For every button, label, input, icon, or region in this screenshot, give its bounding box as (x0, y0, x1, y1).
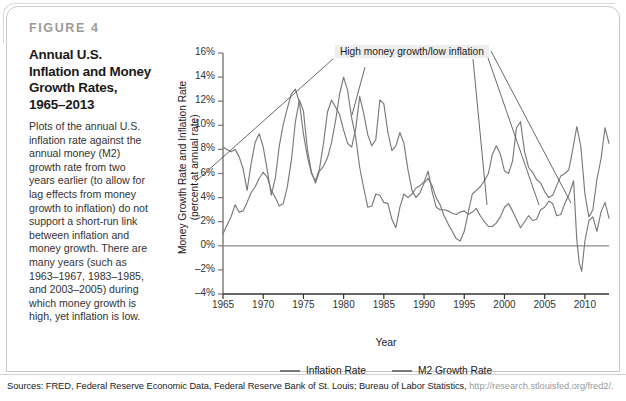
x-tick-label: 1990 (404, 299, 444, 310)
series-line-0 (223, 77, 609, 271)
annotation-leader-lines (195, 51, 571, 205)
y-tick-label: 12% (181, 94, 215, 105)
x-tick-label: 1980 (324, 299, 364, 310)
leader-line (491, 51, 571, 203)
series-lines (223, 77, 609, 271)
leader-line (487, 55, 539, 205)
sources-url[interactable]: http://research.stlouisfed.org/fred2/. (469, 381, 613, 391)
chart-plot-area: Money Growth Rate and Inflation Rate (pe… (157, 37, 615, 367)
figure-card: FIGURE 4 Annual U.S. Inflation and Money… (6, 6, 620, 372)
x-tick-label: 1970 (243, 299, 283, 310)
footer-divider (0, 374, 626, 375)
legend-swatch (280, 370, 300, 372)
y-tick-label: 16% (181, 46, 215, 57)
x-tick-label: 2000 (484, 299, 524, 310)
y-tick-label: 6% (181, 167, 215, 178)
x-tick-label: 2010 (565, 299, 605, 310)
y-tick-label: 0% (181, 239, 215, 250)
annotation-high-money-growth: High money growth/low inflation (335, 45, 489, 58)
caption-column: Annual U.S. Inflation and Money Growth R… (29, 47, 151, 324)
figure-title: Annual U.S. Inflation and Money Growth R… (29, 47, 151, 113)
chart-svg (157, 37, 615, 337)
sources-text: Sources: FRED, Federal Reserve Economic … (7, 381, 467, 391)
tick-marks (218, 53, 585, 299)
y-tick-label: 2% (181, 215, 215, 226)
figure-label: FIGURE 4 (29, 21, 99, 35)
y-tick-label: 10% (181, 118, 215, 129)
leader-line (195, 59, 333, 182)
axes-group (223, 53, 609, 294)
x-tick-label: 1965 (203, 299, 243, 310)
leader-line (473, 59, 487, 205)
x-tick-label: 2005 (525, 299, 565, 310)
figure-caption: Plots of the annual U.S. inflation rate … (29, 120, 151, 324)
y-tick-label: –4% (181, 287, 215, 298)
x-tick-label: 1995 (444, 299, 484, 310)
y-tick-label: 8% (181, 142, 215, 153)
y-tick-label: 14% (181, 70, 215, 81)
x-axis-title: Year (157, 337, 615, 348)
y-tick-label: –2% (181, 263, 215, 274)
sources-line: Sources: FRED, Federal Reserve Economic … (7, 381, 614, 391)
x-tick-label: 1985 (364, 299, 404, 310)
x-tick-label: 1975 (283, 299, 323, 310)
legend-swatch (392, 370, 412, 372)
y-tick-label: 4% (181, 191, 215, 202)
